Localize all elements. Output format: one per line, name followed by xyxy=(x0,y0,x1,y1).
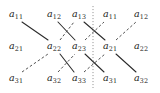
solid-diagonal-a12-a23 xyxy=(58,22,75,40)
solid-diagonal-a11-a22 xyxy=(22,22,48,40)
matrix-entry-r3c3: a33 xyxy=(72,73,86,84)
matrix-entry-r2c1: a21 xyxy=(9,41,23,52)
dashed-diagonal-a23-a11dup xyxy=(85,22,104,40)
solid-diagonal-a23-a31dup xyxy=(85,54,104,72)
matrix-entry-r1c4-repeat: a11 xyxy=(103,9,117,20)
solid-diagonal-a13-a21dup xyxy=(84,22,105,40)
entry-subscript: 11 xyxy=(109,13,117,21)
matrix-entry-r2c2: a22 xyxy=(47,41,61,52)
entry-subscript: 11 xyxy=(15,13,23,21)
dashed-diagonal-a21dup-a12dup xyxy=(116,22,136,40)
entry-subscript: 31 xyxy=(15,77,23,85)
matrix-entry-r3c4-repeat: a31 xyxy=(103,73,117,84)
entry-subscript: 32 xyxy=(140,77,148,85)
entry-subscript: 22 xyxy=(53,45,61,53)
matrix-entry-r1c5-repeat: a12 xyxy=(134,9,148,20)
dashed-diagonal-a32-a23 xyxy=(58,54,75,72)
matrix-entry-r2c5-repeat: a22 xyxy=(134,41,148,52)
dashed-diagonal-a31-a22 xyxy=(22,54,48,72)
entry-subscript: 31 xyxy=(109,77,117,85)
matrix-entry-r3c1: a31 xyxy=(9,73,23,84)
matrix-entry-r3c5-repeat: a32 xyxy=(134,73,148,84)
sarrus-rule-diagram: a11 a12 a13 a11 a12 a21 a22 a23 a21 a22 … xyxy=(0,0,160,93)
entry-subscript: 21 xyxy=(15,45,23,53)
entry-subscript: 12 xyxy=(53,13,61,21)
entry-subscript: 32 xyxy=(53,77,61,85)
entry-subscript: 12 xyxy=(140,13,148,21)
solid-diagonal-a22-a33 xyxy=(60,54,74,72)
entry-subscript: 21 xyxy=(109,45,117,53)
entry-subscript: 22 xyxy=(140,45,148,53)
matrix-entry-r2c3: a23 xyxy=(72,41,86,52)
dashed-diagonal-a22-a13 xyxy=(60,22,74,40)
dashed-diagonal-a33-a21dup xyxy=(84,54,105,72)
matrix-entry-r1c2: a12 xyxy=(47,9,61,20)
matrix-entry-r1c1: a11 xyxy=(9,9,23,20)
matrix-entry-r2c4-repeat: a21 xyxy=(103,41,117,52)
matrix-entry-r1c3: a13 xyxy=(72,9,86,20)
entry-subscript: 33 xyxy=(78,77,86,85)
matrix-entry-r3c2: a32 xyxy=(47,73,61,84)
solid-diagonal-a21dup-a32dup xyxy=(116,54,136,72)
entry-subscript: 13 xyxy=(78,13,86,21)
entry-subscript: 23 xyxy=(78,45,86,53)
